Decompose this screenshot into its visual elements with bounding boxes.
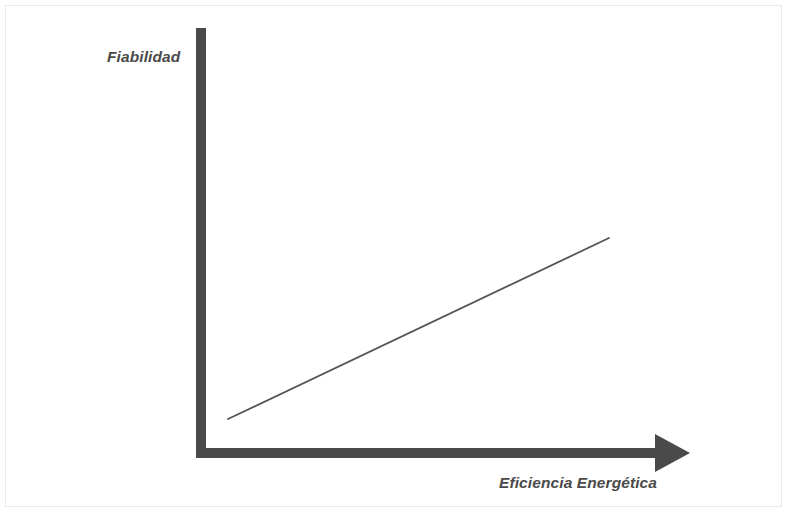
trend-line [228, 238, 609, 419]
x-axis-line [196, 448, 660, 458]
x-axis-label: Eficiencia Energética [499, 474, 657, 492]
chart-graphics [0, 0, 790, 513]
figure-canvas: Fiabilidad Eficiencia Energética [0, 0, 790, 513]
y-axis-line [196, 28, 206, 458]
x-axis-arrowhead-icon [655, 434, 690, 472]
y-axis-label: Fiabilidad [107, 48, 180, 66]
chart-area: Fiabilidad Eficiencia Energética [0, 0, 790, 513]
